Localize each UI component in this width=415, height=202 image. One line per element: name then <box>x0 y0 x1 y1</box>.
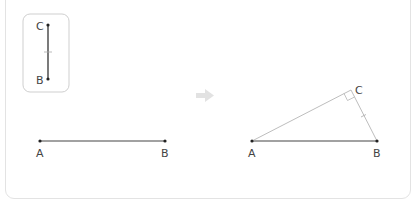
label-a-triangle: A <box>248 147 256 160</box>
triangle-side-ac <box>252 90 351 141</box>
label-b-given: B <box>36 74 44 87</box>
given-segment-box <box>23 14 69 92</box>
right-arrow-icon <box>196 89 214 102</box>
label-b-left: B <box>161 147 169 160</box>
label-b-triangle: B <box>373 147 381 160</box>
label-c-triangle: C <box>355 84 363 97</box>
label-c-given: C <box>36 20 44 33</box>
label-a-left: A <box>36 147 44 160</box>
construction-diagram: C B A B A B C <box>0 0 415 202</box>
